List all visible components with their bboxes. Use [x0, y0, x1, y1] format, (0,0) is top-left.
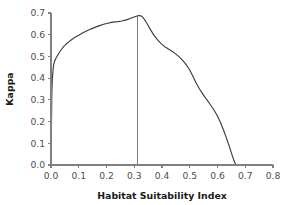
- x-tick-label: 0.6: [210, 170, 225, 181]
- x-tick-label: 0.7: [238, 170, 253, 181]
- y-tick-label: 0.4: [30, 72, 45, 83]
- y-axis-ticks: 0.00.10.20.30.40.50.60.7: [30, 7, 51, 170]
- data-series-layer: [51, 16, 273, 165]
- x-tick-label: 0.0: [44, 170, 59, 181]
- y-axis-title: Kappa: [4, 72, 15, 105]
- plot-area: [51, 16, 273, 165]
- y-tick-label: 0.5: [30, 51, 45, 62]
- data-curve: [51, 16, 273, 165]
- axes-layer: [51, 13, 273, 165]
- y-tick-label: 0.2: [30, 116, 45, 127]
- x-tick-label: 0.5: [182, 170, 197, 181]
- chart-container: 0.00.10.20.30.40.50.60.70.8 0.00.10.20.3…: [0, 0, 286, 205]
- kappa-vs-hsi-line-chart: 0.00.10.20.30.40.50.60.70.8 0.00.10.20.3…: [0, 0, 286, 205]
- x-tick-label: 0.2: [99, 170, 114, 181]
- x-axis-ticks: 0.00.10.20.30.40.50.60.70.8: [44, 165, 281, 181]
- x-tick-label: 0.3: [127, 170, 142, 181]
- y-tick-label: 0.7: [30, 7, 45, 18]
- x-axis-title: Habitat Suitability Index: [97, 190, 227, 201]
- x-tick-label: 0.4: [155, 170, 170, 181]
- y-tick-label: 0.3: [30, 94, 45, 105]
- x-tick-label: 0.8: [266, 170, 281, 181]
- y-tick-label: 0.0: [30, 159, 45, 170]
- y-tick-label: 0.1: [30, 138, 45, 149]
- x-tick-label: 0.1: [71, 170, 86, 181]
- y-tick-label: 0.6: [30, 29, 45, 40]
